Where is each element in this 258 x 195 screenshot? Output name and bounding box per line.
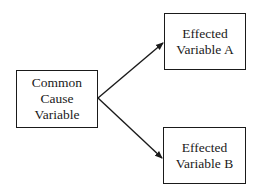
arrow-cause-to-a <box>98 43 163 98</box>
arrow-cause-to-b <box>98 98 162 158</box>
node-label-line: Common <box>32 75 82 91</box>
node-label-line: Cause <box>41 91 74 107</box>
node-common-cause-variable: Common Cause Variable <box>16 70 98 128</box>
node-effected-variable-b: Effected Variable B <box>163 127 246 184</box>
node-label-line: Effected <box>182 140 227 156</box>
node-label-line: Effected <box>182 26 227 42</box>
node-label-line: Variable <box>35 107 80 123</box>
node-label-line: Variable B <box>176 156 233 172</box>
node-effected-variable-a: Effected Variable A <box>164 13 246 70</box>
node-label-line: Variable A <box>176 42 233 58</box>
